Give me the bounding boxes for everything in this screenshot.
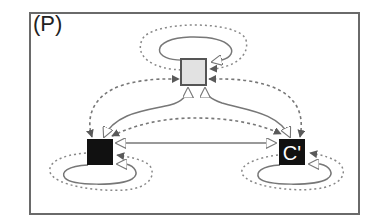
edge-Cprime-top-dashed: [209, 79, 301, 137]
edge-C-top-solid: [104, 88, 188, 137]
network-diagram: C': [0, 0, 383, 219]
Cprime-self-loop-solid: [258, 164, 331, 184]
node-Cprime-label: C': [283, 142, 301, 164]
edge-C-Cprime-dashed: [112, 118, 281, 136]
edge-Cprime-top-solid: [205, 88, 290, 137]
node-top[interactable]: [181, 59, 206, 85]
node-C[interactable]: [87, 139, 113, 165]
node-Cprime[interactable]: C': [279, 139, 305, 165]
edge-C-top-dashed: [90, 79, 179, 137]
C-self-loop-solid: [64, 164, 136, 184]
